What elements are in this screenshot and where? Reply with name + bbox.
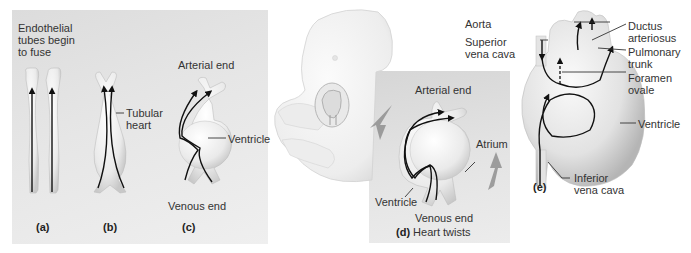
label-endothelial-3: to fuse xyxy=(18,46,51,58)
label-superior-vena-cava-1: Superior xyxy=(465,36,507,48)
panel-b-tubular-heart xyxy=(94,72,126,193)
panel-e-fetal-heart xyxy=(522,11,645,188)
label-endothelial-1: Endothelial xyxy=(18,22,72,34)
label-aorta: Aorta xyxy=(465,18,491,30)
panel-d-twisting-heart xyxy=(370,102,502,206)
heart-development-illustration xyxy=(0,0,691,253)
label-pulmonary-trunk-1: Pulmonary xyxy=(628,46,681,58)
caption-a: (a) xyxy=(36,221,49,233)
label-e-ventricle: Ventricle xyxy=(638,118,680,130)
label-d-ventricle: Ventricle xyxy=(375,196,417,208)
label-d-atrium: Atrium xyxy=(476,138,508,150)
caption-b: (b) xyxy=(103,221,117,233)
panel-c-looping-heart xyxy=(179,77,232,184)
caption-d-text: Heart twists xyxy=(413,226,470,238)
caption-e: (e) xyxy=(533,181,546,193)
label-c-arterial-end: Arterial end xyxy=(178,59,234,71)
label-superior-vena-cava-2: vena cava xyxy=(465,48,515,60)
label-pulmonary-trunk-2: trunk xyxy=(628,58,652,70)
label-ductus-arteriosus-2: arteriosus xyxy=(628,32,676,44)
caption-d-letter: (d) xyxy=(396,226,410,238)
embryo-illustration xyxy=(275,10,393,182)
panel-a-tubes xyxy=(26,68,61,193)
label-ductus-arteriosus-1: Ductus xyxy=(628,20,662,32)
caption-d: (d) Heart twists xyxy=(396,226,471,238)
label-inferior-vena-cava-2: vena cava xyxy=(574,184,624,196)
label-inferior-vena-cava-1: Inferior xyxy=(574,172,608,184)
label-c-ventricle: Ventricle xyxy=(228,133,270,145)
label-tubular-heart-1: Tubular xyxy=(126,107,163,119)
label-c-venous-end: Venous end xyxy=(168,200,226,212)
label-d-venous-end: Venous end xyxy=(415,212,473,224)
label-foramen-ovale-1: Foramen xyxy=(628,72,672,84)
caption-c: (c) xyxy=(182,221,195,233)
label-d-arterial-end: Arterial end xyxy=(415,84,471,96)
label-tubular-heart-2: heart xyxy=(126,119,151,131)
label-endothelial-2: tubes begin xyxy=(18,34,75,46)
label-foramen-ovale-2: ovale xyxy=(628,84,654,96)
